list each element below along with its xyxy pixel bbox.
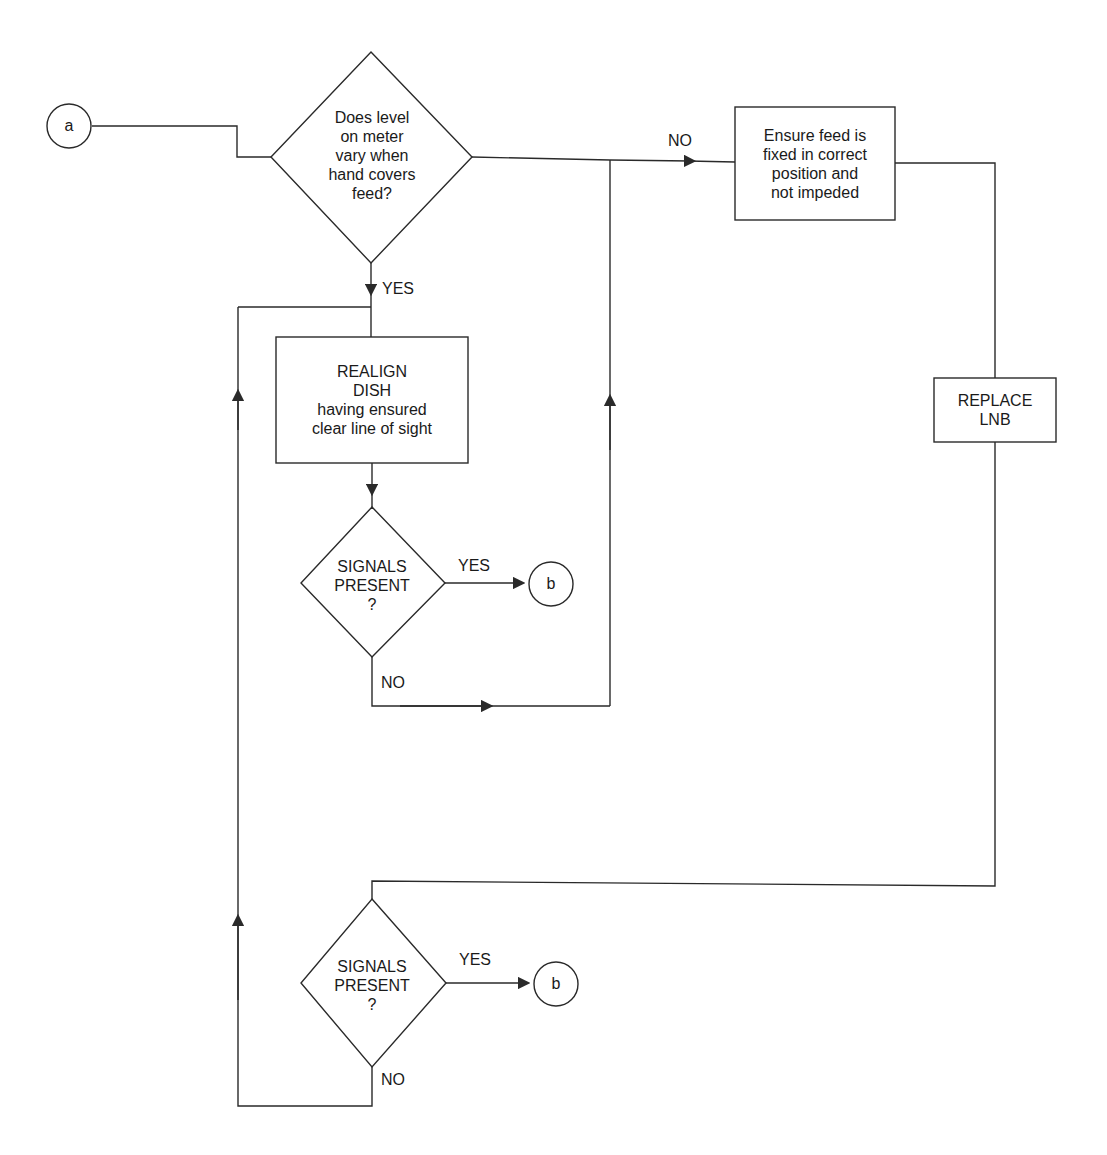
process-realign-dish: REALIGN DISH having ensured clear line o… — [276, 337, 468, 463]
process-line: fixed in correct — [763, 145, 867, 164]
process-ensure-feed: Ensure feed is fixed in correct position… — [735, 107, 895, 220]
process-line: not impeded — [771, 183, 859, 202]
process-replace-lnb: REPLACE LNB — [934, 378, 1056, 442]
process-line: clear line of sight — [312, 419, 432, 438]
edge-label-signals2-no: NO — [381, 1070, 405, 1089]
decision-line: on meter — [340, 127, 403, 146]
process-line: DISH — [353, 381, 391, 400]
decision-line: feed? — [352, 184, 392, 203]
decision-line: PRESENT — [334, 576, 410, 595]
process-line: REPLACE — [958, 391, 1033, 410]
edge-label-level-yes: YES — [382, 279, 414, 298]
decision-line: hand covers — [328, 165, 415, 184]
decision-signals-present-2: SIGNALS PRESENT ? — [312, 953, 432, 1017]
edge-label-signals1-no: NO — [381, 673, 405, 692]
decision-line: SIGNALS — [337, 557, 406, 576]
decision-line: Does level — [335, 108, 410, 127]
connector-b1: b — [529, 562, 573, 606]
process-line: having ensured — [317, 400, 426, 419]
decision-signals-present-1: SIGNALS PRESENT ? — [312, 553, 432, 617]
decision-line: ? — [368, 995, 377, 1014]
connector-b1-label: b — [547, 575, 556, 593]
decision-level-varies: Does level on meter vary when hand cover… — [296, 105, 448, 205]
edge-label-signals2-yes: YES — [459, 950, 491, 969]
edge-label-level-no: NO — [668, 131, 692, 150]
decision-line: SIGNALS — [337, 957, 406, 976]
connector-a: a — [47, 104, 91, 148]
decision-line: vary when — [336, 146, 409, 165]
edge-a-to-decision — [92, 126, 271, 157]
decision-line: PRESENT — [334, 976, 410, 995]
connector-b2-label: b — [552, 975, 561, 993]
process-line: position and — [772, 164, 858, 183]
connector-b2: b — [534, 962, 578, 1006]
edge-label-signals1-yes: YES — [458, 556, 490, 575]
decision-line: ? — [368, 595, 377, 614]
process-line: LNB — [979, 410, 1010, 429]
connector-a-label: a — [65, 117, 74, 135]
process-line: REALIGN — [337, 362, 407, 381]
process-line: Ensure feed is — [764, 126, 866, 145]
